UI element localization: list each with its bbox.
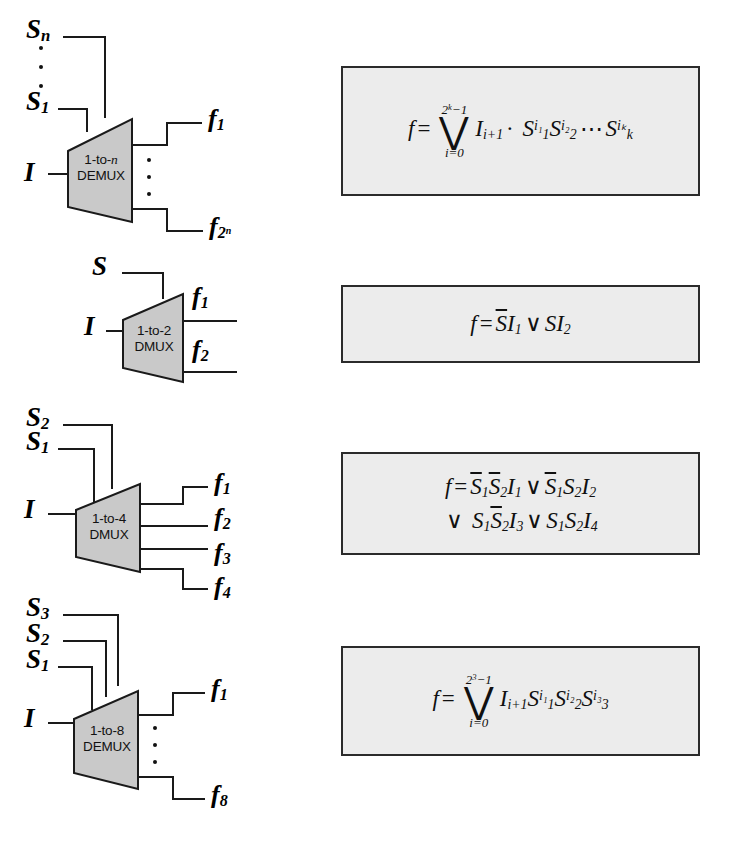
- bigvee-lower-n: i=0: [445, 146, 464, 159]
- demux-label-2-line1: 1-to-2: [137, 323, 171, 338]
- wire-f1-n-a: [131, 144, 168, 146]
- demux-label-2-line2: DMUX: [135, 339, 174, 354]
- bigvee-8: 23−1 ⋁ i=0: [464, 673, 494, 729]
- demux-symbol-2: 1-to-2 DMUX: [123, 293, 185, 383]
- f2n-sub: 2n: [218, 224, 232, 241]
- equation-8: f= 23−1 ⋁ i=0 Ii+1Si₁1Si₂2Si₃3: [432, 673, 608, 729]
- wire-s-2-h: [122, 272, 164, 274]
- bigvee-glyph-n: ⋁: [439, 117, 469, 145]
- wire-f1-4-b: [182, 486, 208, 488]
- wire-sn-v: [104, 36, 106, 118]
- wire-s3-8-h: [63, 614, 119, 616]
- demux-label-8: 1-to-8 DEMUX: [74, 723, 140, 755]
- demux-symbol-n: 1-to-n DEMUX: [68, 118, 134, 223]
- select-label-s1: S1: [26, 88, 49, 117]
- wire-f8-v: [172, 776, 174, 799]
- output-label-f1-n: f1: [208, 106, 225, 133]
- bigvee-lower-8: i=0: [469, 716, 488, 729]
- data-input-label-2: I: [84, 313, 95, 340]
- equation-2: f=SI1∨SI2: [470, 307, 570, 340]
- wire-s1-h: [58, 108, 88, 110]
- equation-n: f= 2k−1 ⋁ i=0 Ii+1· Si₁1Si₂2⋯Siₖk: [408, 103, 633, 159]
- output-label-f3-4: f3: [214, 540, 231, 567]
- demux-label-n-line1: 1-to-n: [84, 152, 117, 167]
- wire-s1-8-h: [58, 666, 93, 668]
- wire-f2-2: [182, 371, 237, 373]
- wire-s2-4-v: [111, 424, 113, 489]
- wire-f3-4: [139, 548, 208, 550]
- select-label-s1-8: S1: [26, 646, 49, 675]
- demux-label-2: 1-to-2 DMUX: [123, 323, 185, 355]
- equation-4-line2: ∨ S1S2I3∨S1S2I4: [443, 504, 597, 537]
- wire-f2n-a: [131, 208, 168, 210]
- demux-label-n-line2: DEMUX: [77, 168, 125, 183]
- wire-s2-8-h: [63, 640, 107, 642]
- output-label-f1-2: f1: [192, 284, 209, 311]
- wire-f1-8-v: [172, 692, 174, 716]
- wire-f1-8-b: [172, 692, 205, 694]
- wire-f4-4-v: [182, 568, 184, 589]
- equation-4-line1: f=S1S2I1∨S1S2I2: [445, 474, 596, 499]
- equation-box-2: f=SI1∨SI2: [341, 285, 700, 363]
- bigvee-n: 2k−1 ⋁ i=0: [439, 103, 469, 159]
- demux-label-8-line2: DEMUX: [83, 739, 131, 754]
- output-label-f8: f8: [211, 782, 228, 809]
- wire-f1-8-a: [137, 714, 174, 716]
- wire-f2n-b: [166, 230, 203, 232]
- select-label-sn: Sn: [26, 16, 50, 45]
- data-input-label-8: I: [24, 705, 35, 732]
- select-label-s-2: S: [92, 253, 107, 280]
- demux-label-4: 1-to-4 DMUX: [76, 511, 142, 543]
- wire-s1-4-h: [58, 448, 95, 450]
- wire-s3-8-v: [117, 614, 119, 686]
- select-ellipsis-n: [38, 46, 44, 88]
- wire-f8-b: [172, 798, 205, 800]
- data-input-label-4: I: [24, 496, 35, 523]
- wire-f4-4-a: [139, 568, 184, 570]
- demux-label-4-line1: 1-to-4: [92, 511, 126, 526]
- wire-f2n-v: [166, 208, 168, 231]
- output-label-f4-4: f4: [214, 574, 231, 601]
- demux-symbol-8: 1-to-8 DEMUX: [74, 690, 140, 790]
- wire-f1-4-a: [139, 503, 184, 505]
- wire-f4-4-b: [182, 588, 208, 590]
- wire-s2-8-v: [105, 640, 107, 697]
- demux-label-8-line1: 1-to-8: [90, 723, 124, 738]
- output-label-f2n: f2n: [209, 214, 231, 241]
- wire-f1-4-v: [182, 486, 184, 505]
- output-ellipsis-n: [146, 158, 152, 196]
- wire-s2-4-h: [63, 424, 113, 426]
- equation-box-n: f= 2k−1 ⋁ i=0 Ii+1· Si₁1Si₂2⋯Siₖk: [341, 66, 700, 196]
- wire-sn-h: [63, 36, 106, 38]
- equation-4: f=S1S2I1∨S1S2I2 ∨ S1S2I3∨S1S2I4: [443, 470, 597, 537]
- output-label-f1-8: f1: [211, 676, 228, 703]
- demux-label-n: 1-to-n DEMUX: [68, 152, 134, 184]
- figure-canvas: Sn S1 I 1-to-n DEMUX f1: [0, 0, 737, 846]
- demux-symbol-4: 1-to-4 DMUX: [76, 483, 142, 573]
- equation-box-8: f= 23−1 ⋁ i=0 Ii+1Si₁1Si₂2Si₃3: [341, 646, 700, 756]
- select-label-s1-4: S1: [26, 428, 49, 457]
- output-label-f2-4: f2: [214, 505, 231, 532]
- bigvee-glyph-8: ⋁: [464, 687, 494, 715]
- data-input-label-n: I: [24, 159, 35, 186]
- output-ellipsis-8: [152, 726, 158, 764]
- wire-f2-4: [139, 525, 208, 527]
- wire-f8-a: [137, 776, 174, 778]
- wire-f1-2: [182, 320, 237, 322]
- wire-f1-n-v: [166, 122, 168, 146]
- demux-label-4-line2: DMUX: [90, 527, 129, 542]
- wire-f1-n-b: [166, 122, 202, 124]
- equation-box-4: f=S1S2I1∨S1S2I2 ∨ S1S2I3∨S1S2I4: [341, 452, 700, 555]
- output-label-f2-2: f2: [192, 337, 209, 364]
- s-bar-2: S: [496, 311, 508, 336]
- output-label-f1-4: f1: [214, 470, 231, 497]
